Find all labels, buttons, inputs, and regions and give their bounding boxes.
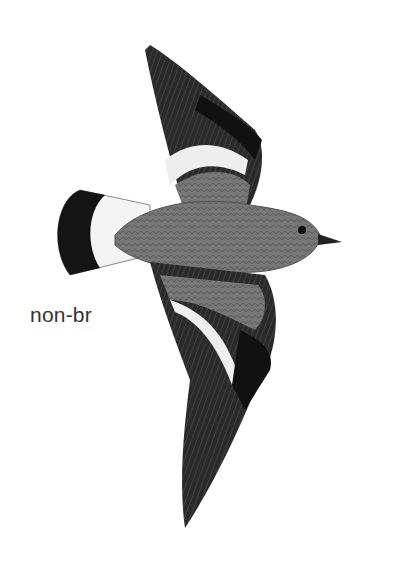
body <box>115 201 342 272</box>
upper-wing <box>145 45 262 215</box>
lower-wing <box>150 262 276 528</box>
plumage-label: non-br <box>30 303 92 327</box>
bird-illustration <box>0 0 413 567</box>
